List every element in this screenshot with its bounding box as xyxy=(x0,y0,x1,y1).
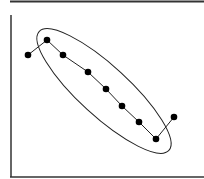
data-point-marker xyxy=(25,52,32,59)
data-point-marker xyxy=(85,69,92,76)
data-point-marker xyxy=(119,103,126,110)
scatter-chart xyxy=(0,0,204,179)
series-line xyxy=(28,40,174,139)
data-point-marker xyxy=(44,37,51,44)
data-point-marker xyxy=(136,119,143,126)
data-point-marker xyxy=(103,86,110,93)
data-markers xyxy=(25,37,178,143)
data-point-marker xyxy=(153,136,160,143)
data-point-marker xyxy=(171,114,178,121)
data-point-marker xyxy=(60,52,67,59)
